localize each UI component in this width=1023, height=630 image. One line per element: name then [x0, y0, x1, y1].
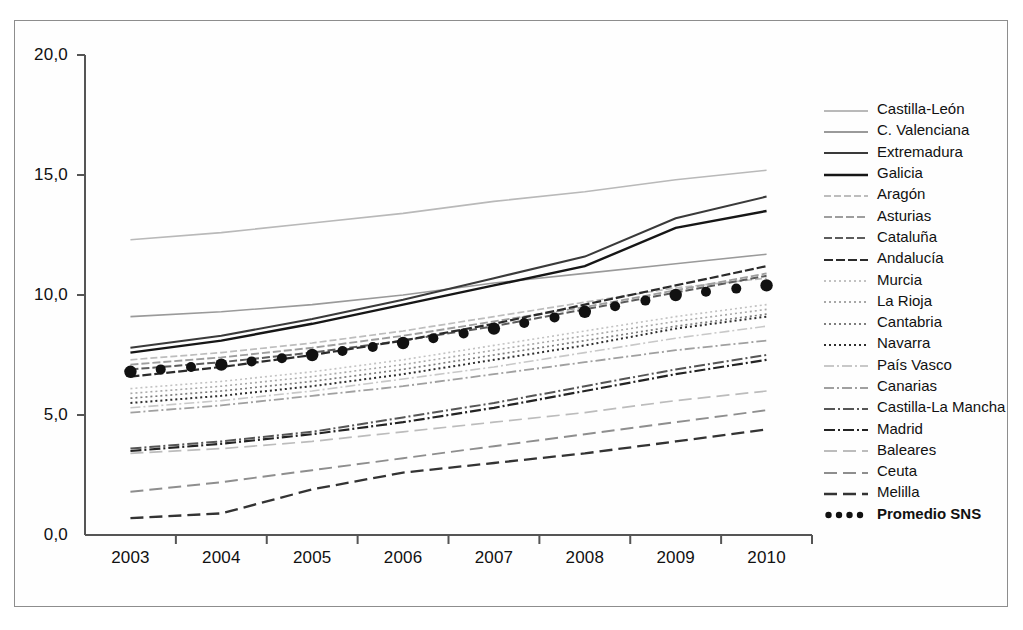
x-tick-marks: [176, 535, 812, 544]
x-tick-label-2010: 2010: [732, 548, 802, 568]
series-extremadura: [130, 197, 766, 348]
legend-item-ceuta[interactable]: Ceuta: [824, 460, 1014, 481]
x-tick-label-2005: 2005: [277, 548, 347, 568]
series-line: [130, 197, 766, 348]
connector-dot: [701, 287, 711, 297]
legend-label: Aragón: [877, 186, 925, 201]
data-point: [306, 349, 318, 361]
connector-dot: [337, 346, 347, 356]
data-point: [488, 322, 500, 334]
data-point: [397, 337, 409, 349]
y-tick-marks: [77, 55, 85, 415]
connector-dot: [186, 362, 196, 372]
series-layer: [124, 170, 773, 518]
legend-label: Canarias: [877, 378, 937, 393]
legend-label: Castilla-León: [877, 101, 965, 116]
connector-dot: [368, 342, 378, 352]
legend-item-baleares[interactable]: Baleares: [824, 439, 1014, 460]
y-tick-label-10: 10,0: [8, 285, 68, 305]
legend-item-galicia[interactable]: Galicia: [824, 162, 1014, 183]
connector-dot: [459, 328, 469, 338]
legend-swatch-icon: [824, 209, 868, 221]
legend-label: Navarra: [877, 335, 930, 350]
legend-label: Andalucía: [877, 250, 944, 265]
legend-swatch-icon: [824, 230, 868, 242]
legend-item-arag-n[interactable]: Aragón: [824, 183, 1014, 204]
legend-item-madrid[interactable]: Madrid: [824, 417, 1014, 438]
legend-item-catalu-a[interactable]: Cataluña: [824, 226, 1014, 247]
legend-label: Murcia: [877, 272, 922, 287]
legend-item-melilla[interactable]: Melilla: [824, 481, 1014, 502]
legend-swatch-icon: [824, 465, 868, 477]
legend-swatch-icon: [824, 422, 868, 434]
legend-label: Cantabria: [877, 314, 942, 329]
legend-swatch-icon: [824, 252, 868, 264]
data-point: [579, 306, 591, 318]
legend-swatch-icon: [824, 124, 868, 136]
legend-item-extremadura[interactable]: Extremadura: [824, 141, 1014, 162]
legend-label: Ceuta: [877, 463, 917, 478]
connector-dot: [247, 356, 257, 366]
legend-label: Galicia: [877, 165, 923, 180]
connector-dot: [156, 364, 166, 374]
legend-item-canarias[interactable]: Canarias: [824, 375, 1014, 396]
y-tick-label-5: 5,0: [8, 405, 68, 425]
legend-item-la-rioja[interactable]: La Rioja: [824, 290, 1014, 311]
legend-label: Castilla-La Mancha: [877, 399, 1005, 414]
data-point: [124, 366, 136, 378]
series-ceuta: [130, 410, 766, 492]
connector-dot: [550, 312, 560, 322]
legend-item-castilla-la-mancha[interactable]: Castilla-La Mancha: [824, 396, 1014, 417]
legend-item-navarra[interactable]: Navarra: [824, 332, 1014, 353]
x-tick-label-2008: 2008: [550, 548, 620, 568]
x-tick-label-2007: 2007: [459, 548, 529, 568]
legend-label: País Vasco: [877, 357, 952, 372]
legend-item-c-valenciana[interactable]: C. Valenciana: [824, 119, 1014, 140]
data-point: [760, 279, 772, 291]
x-tick-label-2006: 2006: [368, 548, 438, 568]
y-tick-label-20: 20,0: [8, 45, 68, 65]
legend-item-pa-s-vasco[interactable]: País Vasco: [824, 354, 1014, 375]
legend-swatch-icon: [824, 401, 868, 413]
legend-swatch-icon: [824, 380, 868, 392]
legend-swatch-icon: [824, 273, 868, 285]
legend-label: La Rioja: [877, 293, 932, 308]
legend-label: Melilla: [877, 484, 920, 499]
legend-label: Baleares: [877, 442, 936, 457]
connector-dot: [277, 353, 287, 363]
legend-label: Madrid: [877, 421, 923, 436]
legend-label: Promedio SNS: [877, 506, 981, 521]
legend-swatch-icon: [824, 486, 868, 498]
legend-swatch-icon: [824, 358, 868, 370]
legend-swatch-icon: [824, 103, 868, 115]
series-line: [130, 410, 766, 492]
connector-dot: [610, 301, 620, 311]
legend-swatch-icon: [824, 443, 868, 455]
legend-item-castilla-le-n[interactable]: Castilla-León: [824, 98, 1014, 119]
legend-label: Asturias: [877, 208, 931, 223]
data-point: [669, 289, 681, 301]
connector-dot: [640, 296, 650, 306]
legend-swatch-icon: [824, 188, 868, 200]
data-point: [215, 358, 227, 370]
legend-swatch-icon: [824, 145, 868, 157]
x-tick-label-2004: 2004: [186, 548, 256, 568]
legend-item-murcia[interactable]: Murcia: [824, 268, 1014, 289]
x-tick-label-2003: 2003: [95, 548, 165, 568]
legend-label: C. Valenciana: [877, 122, 969, 137]
connector-dot: [428, 333, 438, 343]
legend-item-promedio-sns[interactable]: Promedio SNS: [824, 503, 1014, 524]
y-tick-label-15: 15,0: [8, 165, 68, 185]
legend-swatch-icon: [824, 167, 868, 179]
legend-item-cantabria[interactable]: Cantabria: [824, 311, 1014, 332]
legend-swatch-icon: [824, 337, 868, 349]
legend-swatch-icon: [824, 507, 868, 519]
legend-item-asturias[interactable]: Asturias: [824, 204, 1014, 225]
legend-item-andaluc-a[interactable]: Andalucía: [824, 247, 1014, 268]
x-tick-label-2009: 2009: [641, 548, 711, 568]
connector-dot: [731, 284, 741, 294]
legend-swatch-icon: [824, 316, 868, 328]
y-tick-label-0: 0,0: [8, 525, 68, 545]
legend-label: Extremadura: [877, 144, 963, 159]
chart-legend: Castilla-LeónC. ValencianaExtremaduraGal…: [824, 98, 1014, 524]
